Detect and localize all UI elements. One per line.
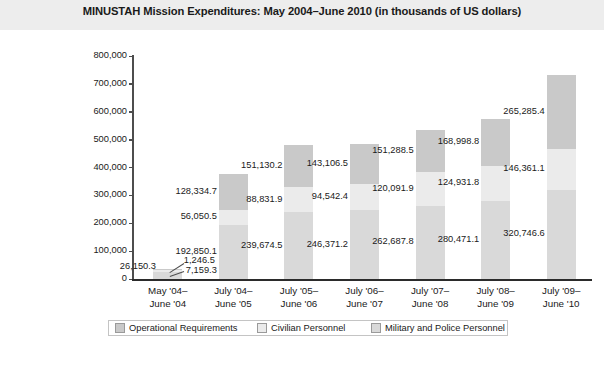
bar-value-label: 7,159.3 <box>186 265 217 275</box>
legend-swatch <box>257 323 267 333</box>
legend-item[interactable]: Civilian Personnel <box>257 323 345 333</box>
bar-value-label: 262,687.8 <box>356 236 414 246</box>
bar-group[interactable] <box>416 56 445 279</box>
y-axis-tick-label: 800,000 <box>67 50 127 60</box>
y-axis-tick-label: 400,000 <box>67 162 127 172</box>
x-axis-category-line1: May '04– <box>148 285 187 296</box>
bar-group[interactable] <box>547 56 576 279</box>
bar-value-label: 320,746.6 <box>487 228 545 238</box>
bar-value-label: 124,931.8 <box>421 177 479 187</box>
legend-item[interactable]: Operational Requirements <box>115 323 238 333</box>
x-axis-category-line1: July '08– <box>476 285 514 296</box>
stacked-bar[interactable] <box>350 144 379 279</box>
bar-segment-military-and-police-personnel[interactable] <box>481 201 510 279</box>
bar-value-label: 246,371.2 <box>290 239 348 249</box>
bar-segment-civilian-personnel[interactable] <box>547 149 576 190</box>
plot-area: 26,150.31,246.57,159.3192,850.156,050.51… <box>133 56 592 279</box>
bar-value-label: 94,542.4 <box>290 191 348 201</box>
x-axis-category-line1: July '04– <box>214 285 252 296</box>
legend-label: Civilian Personnel <box>271 323 345 333</box>
bar-value-label: 239,674.5 <box>224 240 282 250</box>
bar-segment-operational-requirements[interactable] <box>481 119 510 166</box>
bar-value-label: 120,091.9 <box>356 183 414 193</box>
page-title: MINUSTAH Mission Expenditures: May 2004–… <box>0 5 604 17</box>
y-axis-tick-label: 700,000 <box>67 78 127 88</box>
bar-segment-military-and-police-personnel[interactable] <box>219 225 248 279</box>
bar-value-label: 151,130.2 <box>224 160 282 170</box>
y-axis-tick-label: 300,000 <box>67 189 127 199</box>
bar-value-label: 88,831.9 <box>224 194 282 204</box>
stacked-bar[interactable] <box>416 130 445 279</box>
bar-value-label: 265,285.4 <box>487 106 545 116</box>
legend-swatch <box>371 323 381 333</box>
chart-legend: Operational RequirementsCivilian Personn… <box>108 320 508 336</box>
legend-item[interactable]: Military and Police Personnel <box>371 323 505 333</box>
x-axis-category-line1: July '06– <box>345 285 383 296</box>
chart-page: MINUSTAH Mission Expenditures: May 2004–… <box>0 0 604 375</box>
bar-value-label: 192,850.1 <box>159 246 217 256</box>
legend-label: Operational Requirements <box>129 323 238 333</box>
bar-segment-operational-requirements[interactable] <box>219 174 248 210</box>
bar-value-label: 56,050.5 <box>159 211 217 221</box>
bar-segment-operational-requirements[interactable] <box>547 75 576 149</box>
bar-value-label: 151,288.5 <box>356 145 414 155</box>
y-axis-tick-label: 500,000 <box>67 134 127 144</box>
y-axis-tick-label: 0 <box>67 273 127 283</box>
bar-value-label: 26,150.3 <box>120 261 156 271</box>
bar-value-label: 280,471.1 <box>421 234 479 244</box>
x-axis-line <box>132 279 592 281</box>
bar-segment-military-and-police-personnel[interactable] <box>547 190 576 279</box>
bar-value-label: 143,106.5 <box>290 158 348 168</box>
bar-value-label: 1,246.5 <box>184 255 215 265</box>
x-axis-category-line1: July '07– <box>411 285 449 296</box>
legend-label: Military and Police Personnel <box>385 323 505 333</box>
bar-value-label: 168,998.8 <box>421 136 479 146</box>
stacked-bar[interactable] <box>481 119 510 279</box>
x-axis-category-line2: June '10 <box>521 297 601 310</box>
stacked-bar[interactable] <box>219 174 248 279</box>
bar-value-label: 146,361.1 <box>487 163 545 173</box>
bar-value-label: 128,334.7 <box>159 186 217 196</box>
y-axis-tick-label: 200,000 <box>67 217 127 227</box>
x-axis-category-label: July '09–June '10 <box>521 284 601 310</box>
x-axis-category-line1: July '05– <box>280 285 318 296</box>
stacked-bar[interactable] <box>547 75 576 279</box>
y-axis-tick-label: 100,000 <box>67 245 127 255</box>
y-axis-tick-label: 600,000 <box>67 106 127 116</box>
x-axis-category-line1: July '09– <box>542 285 580 296</box>
bar-segment-civilian-personnel[interactable] <box>219 210 248 226</box>
legend-swatch <box>115 323 125 333</box>
